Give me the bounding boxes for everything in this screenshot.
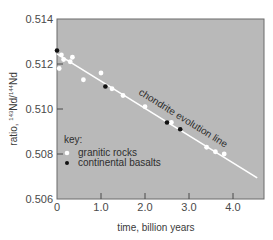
- y-tick-label: 0.506: [25, 193, 53, 205]
- legend-white-marker-icon: [65, 151, 70, 156]
- x-tick-label: 0: [54, 201, 60, 213]
- granitic-rock-point: [213, 149, 218, 154]
- granitic-rock-point: [70, 55, 75, 60]
- granitic-rock-point: [143, 104, 148, 109]
- y-tick-label: 0.512: [25, 58, 53, 70]
- granitic-rock-point: [81, 77, 86, 82]
- x-tick-label: 1.0: [93, 201, 108, 213]
- granitic-rock-point: [61, 57, 66, 62]
- x-tick-label: 4.0: [225, 201, 240, 213]
- y-tick-label: 0.508: [25, 148, 53, 160]
- x-tick-label: 3.0: [181, 201, 196, 213]
- y-axis-title: ratio, 143Nd/144Nd: [8, 72, 19, 145]
- granitic-rock-point: [59, 53, 64, 58]
- continental-basalt-point: [165, 120, 170, 125]
- continental-basalt-point: [103, 84, 108, 89]
- granitic-rock-point: [68, 59, 73, 64]
- legend-continental-basalts: continental basalts: [78, 157, 161, 168]
- x-tick-label: 2.0: [137, 201, 152, 213]
- granitic-rock-point: [204, 145, 209, 150]
- legend-black-marker-icon: [65, 161, 69, 165]
- granitic-rock-point: [99, 71, 104, 76]
- continental-basalt-point: [55, 48, 60, 53]
- x-axis-title: time, billion years: [117, 222, 194, 233]
- granitic-rock-point: [169, 120, 174, 125]
- granitic-rock-point: [222, 152, 227, 157]
- nd-isotope-chart: 0.5060.5080.5100.5120.514 01.02.03.04.0 …: [0, 0, 273, 240]
- granitic-rock-point: [57, 66, 62, 71]
- continental-basalt-point: [178, 127, 183, 132]
- y-tick-label: 0.514: [25, 13, 53, 25]
- legend-title: key:: [64, 134, 82, 145]
- y-tick-label: 0.510: [25, 103, 53, 115]
- granitic-rock-point: [121, 93, 126, 98]
- granitic-rock-point: [110, 86, 115, 91]
